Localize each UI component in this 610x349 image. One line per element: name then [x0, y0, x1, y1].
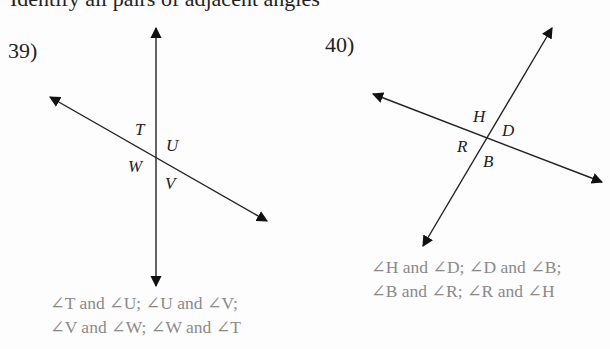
angle-label-b: B — [483, 152, 493, 172]
answer-line: ∠T and ∠U; ∠U and ∠V; — [50, 291, 241, 315]
angle-label-v: V — [165, 174, 175, 194]
line-b-40 — [423, 28, 552, 246]
angle-label-d: D — [502, 121, 514, 141]
diagonal-line-39 — [50, 97, 267, 221]
angle-label-w: W — [128, 157, 142, 177]
answer-line: ∠H and ∠D; ∠D and ∠B; — [371, 255, 561, 279]
angle-label-t: T — [135, 120, 144, 140]
answer-39: ∠T and ∠U; ∠U and ∠V; ∠V and ∠W; ∠W and … — [50, 291, 241, 339]
angle-label-h: H — [473, 107, 485, 127]
answer-line: ∠V and ∠W; ∠W and ∠T — [50, 315, 241, 339]
answer-line: ∠B and ∠R; ∠R and ∠H — [371, 279, 561, 303]
angle-label-u: U — [166, 136, 178, 156]
answer-40: ∠H and ∠D; ∠D and ∠B; ∠B and ∠R; ∠R and … — [371, 255, 561, 303]
angle-label-r: R — [457, 137, 467, 157]
